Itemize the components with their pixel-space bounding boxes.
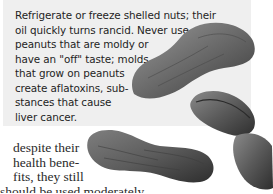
body-line: despite their — [13, 141, 147, 156]
tip-line: liver cancer. — [15, 110, 205, 125]
body-line: health bene- — [13, 156, 147, 171]
body-line: fits, they still — [13, 170, 147, 185]
body-paragraph: despite their health bene- fits, they st… — [13, 141, 147, 193]
body-line: should be used moderately. — [0, 185, 147, 194]
